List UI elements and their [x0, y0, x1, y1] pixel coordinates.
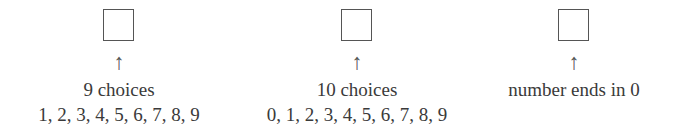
choices-digits: 1, 2, 3, 4, 5, 6, 7, 8, 9 [0, 104, 249, 126]
digit-box [103, 9, 134, 41]
ends-in-zero-label: number ends in 0 [444, 79, 682, 101]
up-arrow-icon: ↑ [564, 50, 584, 74]
up-arrow-icon: ↑ [347, 50, 367, 74]
digit-box [341, 9, 372, 41]
choices-label: 9 choices [0, 79, 249, 101]
digit-box [558, 9, 589, 41]
up-arrow-icon: ↑ [109, 50, 129, 74]
choices-digits: 0, 1, 2, 3, 4, 5, 6, 7, 8, 9 [227, 104, 487, 126]
